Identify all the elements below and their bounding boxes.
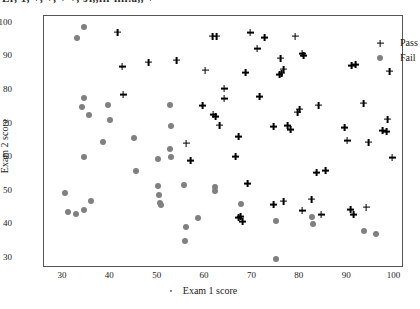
data-point-pass bbox=[359, 99, 368, 108]
legend-item-fail: Fail bbox=[376, 51, 420, 66]
x-tick-label: 30 bbox=[42, 271, 82, 280]
plus-marker-icon bbox=[376, 39, 385, 48]
data-point-pass bbox=[253, 44, 262, 53]
data-point-fail bbox=[361, 228, 367, 234]
data-point-fail bbox=[65, 209, 71, 215]
x-tick-label: 100 bbox=[374, 271, 414, 280]
x-tick-label: 90 bbox=[326, 271, 366, 280]
data-point-pass bbox=[298, 206, 307, 215]
y-tick-label: 80 bbox=[0, 84, 12, 93]
data-point-pass bbox=[340, 123, 349, 132]
data-point-pass bbox=[211, 112, 220, 121]
data-point-fail bbox=[167, 102, 173, 108]
x-tick-label: 80 bbox=[279, 271, 319, 280]
data-point-fail bbox=[182, 238, 188, 244]
data-point-pass bbox=[277, 69, 286, 78]
x-tick-label: 70 bbox=[231, 271, 271, 280]
data-point-pass bbox=[215, 121, 224, 130]
y-tick-label: 40 bbox=[0, 219, 12, 228]
data-point-fail bbox=[158, 202, 164, 208]
data-point-fail bbox=[73, 211, 79, 217]
scatter-plot-figure: Pass Fail Exam 2 score Exam 1 score 3040… bbox=[0, 0, 420, 309]
y-tick-label: 30 bbox=[0, 252, 12, 261]
data-point-pass bbox=[343, 136, 352, 145]
data-point-pass bbox=[286, 125, 295, 134]
y-tick-label: 90 bbox=[0, 51, 12, 60]
data-point-pass bbox=[243, 179, 252, 188]
data-point-pass bbox=[119, 90, 128, 99]
data-point-fail bbox=[100, 139, 106, 145]
data-point-pass bbox=[255, 92, 264, 101]
data-point-pass bbox=[279, 197, 288, 206]
data-point-fail bbox=[373, 231, 379, 237]
y-tick-label: 100 bbox=[0, 17, 12, 26]
legend: Pass Fail bbox=[376, 36, 420, 68]
data-point-pass bbox=[234, 132, 243, 141]
data-point-fail bbox=[273, 256, 279, 262]
data-point-pass bbox=[312, 168, 321, 177]
data-point-fail bbox=[81, 207, 87, 213]
data-point-fail bbox=[105, 102, 111, 108]
data-point-fail bbox=[310, 221, 316, 227]
y-tick-label: 70 bbox=[0, 118, 12, 127]
legend-label-fail: Fail bbox=[400, 52, 416, 64]
data-point-fail bbox=[81, 154, 87, 160]
data-point-fail bbox=[131, 135, 137, 141]
data-point-fail bbox=[183, 224, 189, 230]
data-point-pass bbox=[362, 203, 371, 212]
data-point-fail bbox=[156, 192, 162, 198]
y-tick-label: 50 bbox=[0, 185, 12, 194]
data-point-pass bbox=[299, 51, 308, 60]
data-point-pass bbox=[260, 33, 269, 42]
data-point-fail bbox=[81, 24, 87, 30]
data-point-pass bbox=[382, 127, 391, 136]
data-point-pass bbox=[246, 28, 255, 37]
data-point-pass bbox=[314, 101, 323, 110]
data-point-pass bbox=[182, 139, 191, 148]
data-point-fail bbox=[155, 183, 161, 189]
data-point-fail bbox=[155, 156, 161, 162]
data-point-fail bbox=[273, 218, 279, 224]
data-point-pass bbox=[321, 166, 330, 175]
data-point-pass bbox=[351, 60, 360, 69]
data-point-fail bbox=[86, 112, 92, 118]
x-tick-label: 50 bbox=[137, 271, 177, 280]
x-axis-label: Exam 1 score bbox=[0, 286, 420, 296]
data-point-pass bbox=[276, 54, 285, 63]
data-point-pass bbox=[186, 156, 195, 165]
data-point-fail bbox=[212, 188, 218, 194]
data-point-pass bbox=[144, 58, 153, 67]
legend-label-pass: Pass bbox=[400, 37, 418, 49]
data-point-pass bbox=[317, 210, 326, 219]
data-point-fail bbox=[88, 198, 94, 204]
data-point-pass bbox=[220, 84, 229, 93]
data-point-fail bbox=[167, 146, 173, 152]
data-point-pass bbox=[269, 122, 278, 131]
data-point-pass bbox=[269, 200, 278, 209]
data-point-pass bbox=[291, 32, 300, 41]
data-point-pass bbox=[220, 94, 229, 103]
data-point-pass bbox=[364, 138, 373, 147]
data-point-pass bbox=[383, 115, 392, 124]
plot-frame: Pass Fail bbox=[43, 15, 403, 267]
data-point-pass bbox=[349, 210, 358, 219]
legend-item-pass: Pass bbox=[376, 36, 420, 51]
data-point-fail bbox=[195, 215, 201, 221]
data-point-pass bbox=[241, 68, 250, 77]
data-point-pass bbox=[118, 62, 127, 71]
data-point-fail bbox=[62, 190, 68, 196]
plot-area bbox=[44, 16, 402, 266]
y-tick-label: 60 bbox=[0, 152, 12, 161]
data-point-fail bbox=[168, 154, 174, 160]
data-point-fail bbox=[309, 214, 315, 220]
data-point-fail bbox=[238, 201, 244, 207]
data-point-pass bbox=[201, 66, 210, 75]
data-point-fail bbox=[107, 117, 113, 123]
data-point-pass bbox=[238, 217, 247, 226]
data-point-fail bbox=[181, 182, 187, 188]
data-point-pass bbox=[198, 101, 207, 110]
data-point-pass bbox=[388, 153, 397, 162]
data-point-pass bbox=[231, 152, 240, 161]
data-point-pass bbox=[307, 195, 316, 204]
circle-marker-icon bbox=[377, 55, 383, 61]
